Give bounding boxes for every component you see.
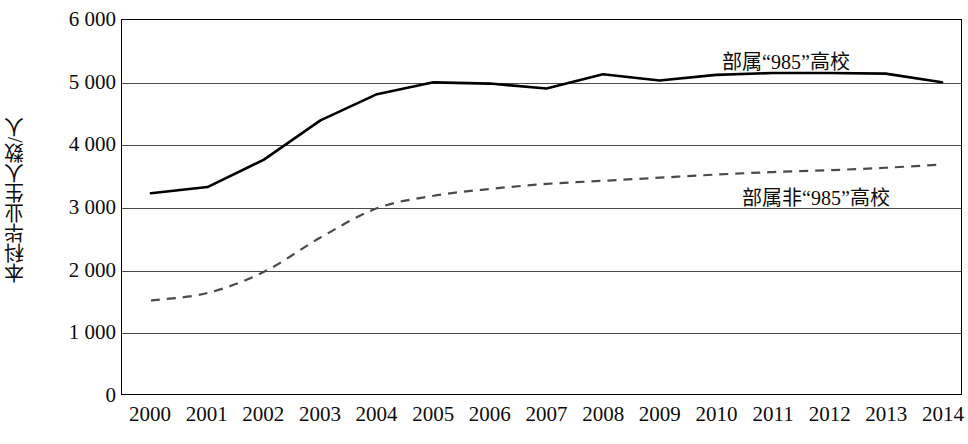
x-tick-label-2014: 2014 — [922, 404, 964, 425]
x-tick-label-2002: 2002 — [242, 404, 284, 425]
x-axis-tick-labels: 2000200120022003200420052006200720082009… — [0, 404, 968, 444]
series-line-solid — [151, 73, 942, 193]
x-tick-label-2013: 2013 — [865, 404, 907, 425]
y-axis-tick-labels: 6 0005 0004 0003 0002 0001 0000 — [28, 0, 116, 444]
series-line-dashed — [151, 165, 942, 301]
y-tick-label-3000: 3 000 — [32, 197, 116, 218]
y-tick-label-5000: 5 000 — [32, 71, 116, 92]
line-chart: 本科毕业生人数/人 6 0005 0004 0003 0002 0001 000… — [0, 0, 968, 444]
series-label-non-985: 部属非“985”高校 — [742, 188, 890, 208]
y-tick-label-6000: 6 000 — [32, 9, 116, 30]
x-tick-label-2005: 2005 — [412, 404, 454, 425]
x-tick-label-2007: 2007 — [526, 404, 568, 425]
plot-area: 部属“985”高校 部属非“985”高校 — [121, 19, 962, 395]
x-tick-label-2000: 2000 — [129, 404, 171, 425]
y-tick-label-1000: 1 000 — [32, 322, 116, 343]
x-tick-label-2006: 2006 — [469, 404, 511, 425]
x-tick-label-2011: 2011 — [752, 404, 793, 425]
x-tick-label-2012: 2012 — [809, 404, 851, 425]
x-tick-label-2009: 2009 — [639, 404, 681, 425]
y-tick-label-2000: 2 000 — [32, 259, 116, 280]
x-tick-label-2010: 2010 — [695, 404, 737, 425]
x-tick-label-2004: 2004 — [356, 404, 398, 425]
x-tick-label-2003: 2003 — [299, 404, 341, 425]
y-tick-label-4000: 4 000 — [32, 134, 116, 155]
x-tick-label-2008: 2008 — [582, 404, 624, 425]
y-tick-label-0: 0 — [32, 385, 116, 406]
y-axis-title-text: 本科毕业生人数/人 — [5, 117, 25, 283]
series-label-985: 部属“985”高校 — [722, 52, 850, 72]
x-tick-label-2001: 2001 — [186, 404, 228, 425]
y-axis-title: 本科毕业生人数/人 — [0, 0, 30, 400]
